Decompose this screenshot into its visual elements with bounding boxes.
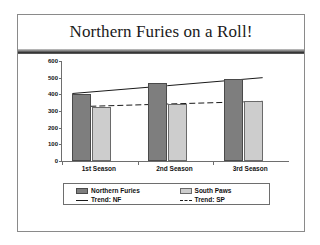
- legend-item-northern-furies[interactable]: Northern Furies: [64, 186, 174, 195]
- legend-row-trends: Trend: NF Trend: SP: [64, 195, 269, 204]
- chart-legend: Northern Furies South Paws Trend: NF Tre…: [63, 183, 270, 205]
- slide-title-area: Northern Furies on a Roll!: [18, 15, 304, 49]
- y-axis-tick-label: 100: [32, 141, 58, 147]
- y-axis-tick-label: 300: [32, 108, 58, 114]
- title-divider-rule: [18, 49, 304, 54]
- chart-plot-wrapper: 0100200300400500600 1st Season2nd Season…: [30, 61, 294, 179]
- bar-south-paws[interactable]: [244, 101, 263, 161]
- y-axis-labels: 0100200300400500600: [30, 61, 58, 161]
- y-axis-tick-label: 400: [32, 91, 58, 97]
- x-axis-category-label: 3rd Season: [212, 165, 288, 172]
- y-axis-tick-mark: [59, 61, 62, 62]
- solid-line-icon: [76, 197, 88, 203]
- y-axis-tick-mark: [59, 78, 62, 79]
- y-axis-tick-label: 200: [32, 125, 58, 131]
- page-title: Northern Furies on a Roll!: [70, 22, 253, 42]
- bar-south-paws[interactable]: [168, 104, 187, 162]
- y-axis-tick-label: 500: [32, 75, 58, 81]
- legend-row-bars: Northern Furies South Paws: [64, 186, 269, 195]
- bar-northern-furies[interactable]: [224, 79, 243, 162]
- bar-swatch-dark-icon: [76, 188, 88, 194]
- dashed-line-icon: [180, 197, 192, 203]
- legend-label-trend-nf: Trend: NF: [91, 196, 121, 203]
- legend-label-south-paws: South Paws: [195, 187, 232, 194]
- x-axis-category-label: 1st Season: [61, 165, 137, 172]
- bar-northern-furies[interactable]: [148, 83, 167, 161]
- presentation-slide: Northern Furies on a Roll! 0100200300400…: [17, 14, 305, 232]
- y-axis-tick-mark: [59, 144, 62, 145]
- y-axis-tick-mark: [59, 94, 62, 95]
- legend-item-south-paws[interactable]: South Paws: [174, 186, 269, 195]
- bar-south-paws[interactable]: [92, 107, 111, 161]
- x-axis-category-label: 2nd Season: [137, 165, 213, 172]
- bar-chart[interactable]: 0100200300400500600 1st Season2nd Season…: [30, 61, 294, 221]
- bar-swatch-light-icon: [180, 188, 192, 194]
- legend-label-trend-sp: Trend: SP: [195, 196, 225, 203]
- chart-plot-area: [61, 61, 289, 162]
- bar-northern-furies[interactable]: [72, 94, 91, 162]
- legend-item-trend-nf[interactable]: Trend: NF: [64, 195, 174, 204]
- legend-item-trend-sp[interactable]: Trend: SP: [174, 195, 269, 204]
- y-axis-tick-mark: [59, 111, 62, 112]
- legend-label-northern-furies: Northern Furies: [91, 187, 140, 194]
- y-axis-tick-label: 0: [32, 158, 58, 164]
- y-axis-tick-mark: [59, 128, 62, 129]
- y-axis-tick-label: 600: [32, 58, 58, 64]
- x-axis-labels: 1st Season2nd Season3rd Season: [61, 165, 288, 177]
